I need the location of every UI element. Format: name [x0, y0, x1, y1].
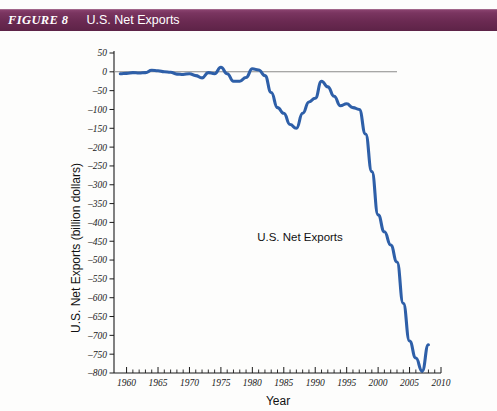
- y-tick-label: 50: [98, 48, 108, 58]
- x-tick-label: 2005: [400, 378, 419, 388]
- y-axis-tick-labels: 500–50–100–150–200–250–300–350–400–450–5…: [87, 48, 107, 378]
- y-axis-title: U.S. Net Exports (billion dollars): [69, 163, 83, 333]
- y-tick-label: –800: [87, 368, 107, 378]
- x-tick-label: 2000: [369, 378, 388, 388]
- x-tick-label: 1970: [180, 378, 199, 388]
- y-tick-label: –250: [87, 161, 107, 171]
- y-tick-label: –400: [87, 218, 107, 228]
- y-tick-label: –650: [87, 312, 107, 322]
- y-axis-tick-marks: [110, 53, 115, 373]
- chart-container: U.S. Net Exports (billion dollars) 500–5…: [0, 33, 497, 411]
- x-tick-label: 1990: [306, 378, 325, 388]
- y-tick-label: –350: [87, 199, 107, 209]
- x-tick-label: 1980: [243, 378, 262, 388]
- net-exports-series-line: [120, 67, 428, 371]
- x-tick-label: 1965: [149, 378, 168, 388]
- x-axis-tick-marks: [127, 367, 441, 373]
- y-tick-label: –600: [87, 293, 107, 303]
- y-tick-label: –150: [87, 124, 107, 134]
- x-tick-label: 1995: [337, 378, 356, 388]
- y-tick-label: –100: [87, 105, 107, 115]
- x-tick-label: 1975: [211, 378, 230, 388]
- y-tick-label: –500: [87, 255, 107, 265]
- y-tick-label: –550: [87, 274, 107, 284]
- y-tick-label: 0: [102, 67, 107, 77]
- y-tick-label: –300: [87, 180, 107, 190]
- x-tick-label: 1960: [117, 378, 136, 388]
- y-tick-label: –50: [92, 86, 108, 96]
- figure-banner: FIGURE 8 U.S. Net Exports: [0, 9, 497, 31]
- figure-number-label: FIGURE 8: [8, 13, 69, 28]
- series-annotation-label: U.S. Net Exports: [257, 231, 343, 243]
- x-tick-label: 1985: [274, 378, 293, 388]
- x-tick-label: 2010: [432, 378, 451, 388]
- y-tick-label: –750: [87, 350, 107, 360]
- y-tick-label: –200: [87, 143, 107, 153]
- x-axis-tick-labels: 1960196519701975198019851990199520002005…: [117, 378, 451, 388]
- y-tick-label: –700: [87, 331, 107, 341]
- net-exports-line-chart: U.S. Net Exports (billion dollars) 500–5…: [0, 33, 497, 411]
- y-tick-label: –450: [87, 237, 107, 247]
- figure-title-label: U.S. Net Exports: [87, 13, 180, 27]
- x-axis-title: Year: [266, 394, 290, 408]
